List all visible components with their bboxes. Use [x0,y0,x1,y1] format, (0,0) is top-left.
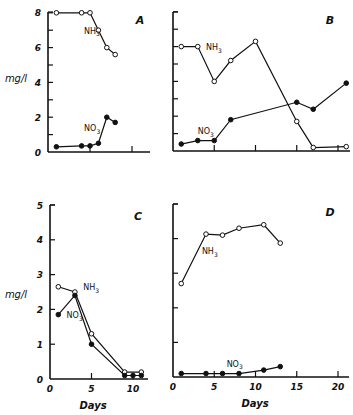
x-tick-label: 10 [249,382,262,392]
panel-label: D [325,206,334,219]
data-point [89,331,94,336]
y-tick-label: 1 [37,340,43,350]
x-tick-label: 15 [290,382,303,392]
data-point [54,144,59,149]
data-point [253,39,258,44]
panel-label: B [326,14,334,27]
data-point [79,144,84,149]
x-tick-label: 20 [332,382,345,392]
series-label: NO3 [198,127,214,138]
y-tick-label: 2 [35,113,41,123]
data-point [105,115,110,120]
x-tick-label: 0 [170,382,176,392]
data-point [212,79,217,84]
data-point [294,119,299,124]
panel-d: 05101520DaysDNH3NO3 [170,204,349,409]
series-line-no3 [58,295,141,375]
series-label: NH3 [83,283,99,294]
data-point [195,44,200,49]
data-point [261,222,266,227]
data-point [73,293,78,298]
x-axis-title: Days [79,400,106,411]
data-point [278,364,283,369]
data-point [179,44,184,49]
data-point [122,373,127,378]
x-tick-label: 5 [211,382,217,392]
data-point [179,371,184,376]
series-label: NO3 [227,360,243,371]
data-point [105,45,110,50]
series-line-nh3 [181,225,280,284]
data-point [220,233,225,238]
data-point [311,107,316,112]
data-point [139,373,144,378]
y-tick-label: 6 [35,43,41,53]
panel-b: BNH3NO3 [173,12,350,151]
data-point [220,371,225,376]
y-tick-label: 0 [35,148,41,158]
data-point [96,141,101,146]
data-point [204,371,209,376]
data-point [311,145,316,150]
y-tick-label: 8 [35,8,41,18]
data-point [278,241,283,246]
x-tick-label: 0 [47,384,53,394]
y-axis-label: mg/l [5,289,27,300]
x-tick-label: 10 [127,384,140,394]
data-point [228,58,233,63]
panel-c: 0123450510mg/lDaysCNH3NO3 [5,201,148,412]
y-tick-label: 3 [37,270,43,280]
data-point [237,226,242,231]
figure: 02468mg/lANH3NO3BNH3NO30123450510mg/lDay… [0,0,353,415]
data-point [212,138,217,143]
series-label: NH3 [202,247,218,257]
data-point [79,11,84,16]
y-tick-label: 4 [34,78,41,88]
x-tick-label: 5 [88,384,94,394]
panel-label: C [134,210,142,223]
data-point [113,52,118,57]
y-axis-label: mg/l [5,73,27,84]
data-point [54,11,59,16]
x-axis-title: Days [241,398,268,409]
data-point [179,142,184,147]
data-point [131,373,136,378]
data-point [56,312,61,317]
data-point [179,281,184,286]
data-point [195,138,200,143]
data-point [228,117,233,122]
data-point [88,144,93,149]
y-tick-label: 5 [37,201,43,211]
panel-a: 02468mg/lANH3NO3 [5,8,150,157]
data-point [113,120,118,125]
data-point [88,11,93,16]
data-point [56,284,61,289]
data-point [204,232,209,237]
data-point [294,100,299,105]
data-point [237,371,242,376]
data-point [344,144,349,149]
series-label: NH3 [206,43,222,54]
series-label: NO3 [84,124,100,135]
y-tick-label: 2 [37,305,43,315]
data-point [344,81,349,86]
y-tick-label: 0 [37,375,43,385]
data-point [89,342,94,347]
panel-label: A [135,14,145,27]
data-point [261,368,266,373]
y-tick-label: 4 [36,235,43,245]
